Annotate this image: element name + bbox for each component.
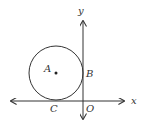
label-tangent-b: B (85, 68, 93, 79)
label-y-axis: y (77, 5, 84, 16)
center-point (55, 72, 58, 75)
label-origin: O (86, 103, 94, 114)
geometry-diagram: A B C O x y (0, 0, 142, 123)
label-x-axis: x (131, 95, 137, 106)
label-center-a: A (43, 63, 51, 74)
label-tangent-c: C (50, 103, 58, 114)
